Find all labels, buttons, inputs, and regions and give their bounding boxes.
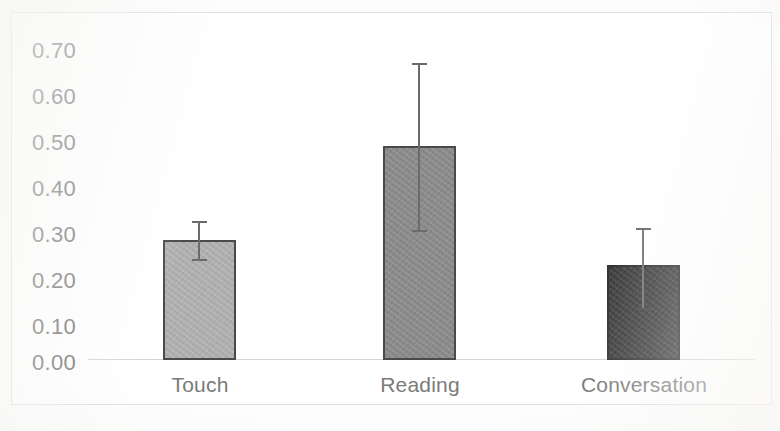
errorbar-stem-reading: [418, 63, 420, 232]
errorbar-cap-upper-touch: [192, 221, 207, 223]
y-tick-label-030: 0.30: [32, 222, 96, 248]
y-tick-label-070: 0.70: [32, 38, 96, 64]
errorbar-cap-lower-reading: [412, 230, 427, 232]
y-tick-label-000: 0.00: [32, 350, 96, 376]
y-tick-label-010: 0.10: [32, 314, 96, 340]
x-tick-label-reading: Reading: [360, 373, 480, 397]
errorbar-cap-lower-conversation: [636, 308, 651, 310]
errorbar-stem-touch: [198, 221, 200, 261]
y-axis: 0.70 0.60 0.50 0.40 0.30 0.20 0.10 0.00: [30, 13, 96, 406]
x-tick-label-touch: Touch: [140, 373, 260, 397]
y-tick-label-050: 0.50: [32, 130, 96, 156]
errorbar-cap-lower-touch: [192, 259, 207, 261]
y-tick-label-040: 0.40: [32, 176, 96, 202]
y-tick-label-020: 0.20: [32, 268, 96, 294]
y-tick-label-060: 0.60: [32, 84, 96, 110]
x-tick-label-conversation: Conversation: [568, 373, 720, 397]
errorbar-cap-upper-conversation: [636, 228, 651, 230]
bar-chart-figure: 0.70 0.60 0.50 0.40 0.30 0.20 0.10 0.00 …: [0, 0, 780, 431]
errorbar-cap-upper-reading: [412, 63, 427, 65]
errorbar-stem-conversation: [642, 228, 644, 310]
